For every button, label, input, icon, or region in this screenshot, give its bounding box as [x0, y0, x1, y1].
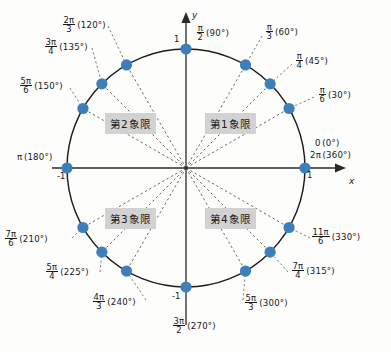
fraction-3pi-over-2: 3π 2	[172, 317, 186, 335]
label-angle-150: 5π 6 (150°)	[19, 77, 63, 95]
tick-right-1: 1	[307, 170, 312, 180]
fraction-pi-over-2: π 2	[196, 24, 205, 42]
quadrant-2-label: 第2象限	[105, 113, 156, 134]
fraction-5pi-over-3: 5π 3	[244, 294, 258, 312]
label-angle-135: 3π 4 (135°)	[44, 38, 88, 56]
fraction-7pi-over-6: 7π 6	[4, 230, 18, 248]
point-150deg[interactable]	[77, 103, 88, 114]
point-60deg[interactable]	[240, 59, 251, 70]
fraction-7pi-over-4: 7π 4	[291, 262, 305, 280]
tick-bottom-1: -1	[172, 291, 180, 301]
label-angle-90: π 2 (90°)	[196, 24, 229, 42]
quadrant-4-label: 第4象限	[205, 208, 256, 229]
angle-rays-group	[70, 26, 314, 300]
fraction-pi-over-4: π 4	[295, 52, 304, 70]
label-angle-315: 7π 4 (315°)	[291, 262, 335, 280]
tick-top-1: 1	[174, 34, 179, 44]
label-angle-120: 2π 3 (120°)	[62, 16, 106, 34]
point-45deg[interactable]	[265, 78, 276, 89]
label-angle-30: π 6 (30°)	[318, 86, 351, 104]
fraction-2pi-over-3: 2π 3	[62, 16, 76, 34]
x-axis-arrow	[335, 164, 346, 173]
point-315deg[interactable]	[265, 247, 276, 258]
tick-left-1: -1	[57, 171, 65, 181]
point-225deg[interactable]	[96, 247, 107, 258]
fraction-pi-over-6: π 6	[318, 86, 327, 104]
fraction-5pi-over-6: 5π 6	[19, 77, 33, 95]
unit-circle-figure: 第1象限 第2象限 第3象限 第4象限 x y 1 -1 -1 1 2π 3 (…	[0, 0, 391, 352]
label-angle-270: 3π 2 (270°)	[172, 317, 216, 335]
label-angle-60: π 3 (60°)	[265, 23, 298, 41]
label-angle-45: π 4 (45°)	[295, 52, 328, 70]
quadrant-1-label: 第1象限	[205, 113, 256, 134]
point-330deg[interactable]	[283, 222, 294, 233]
label-angle-360: 2π(360°)	[310, 151, 351, 160]
point-135deg[interactable]	[96, 78, 107, 89]
point-120deg[interactable]	[121, 59, 132, 70]
fraction-pi-over-3: π 3	[265, 23, 274, 41]
label-angle-180: π(180°)	[17, 153, 52, 162]
y-axis-arrow	[181, 12, 190, 23]
fraction-5pi-over-4: 5π 4	[45, 263, 59, 281]
label-angle-300: 5π 3 (300°)	[244, 294, 288, 312]
y-axis-label: y	[192, 10, 197, 20]
label-angle-330: 11π 6 (330°)	[311, 228, 360, 246]
label-angle-240: 4π 3 (240°)	[92, 293, 136, 311]
point-270deg[interactable]	[180, 281, 191, 292]
leader-120	[108, 26, 127, 65]
label-angle-210: 7π 6 (210°)	[4, 230, 48, 248]
label-angle-225: 5π 4 (225°)	[45, 263, 89, 281]
quadrant-3-label: 第3象限	[105, 208, 156, 229]
point-30deg[interactable]	[283, 103, 294, 114]
point-300deg[interactable]	[240, 265, 251, 276]
point-90deg[interactable]	[180, 43, 191, 54]
fraction-3pi-over-4: 3π 4	[44, 38, 58, 56]
fraction-11pi-over-6: 11π 6	[311, 228, 330, 246]
label-angle-0: 0(0°)	[315, 139, 339, 148]
fraction-4pi-over-3: 4π 3	[92, 293, 106, 311]
x-axis-label: x	[349, 176, 354, 186]
point-240deg[interactable]	[121, 265, 132, 276]
point-210deg[interactable]	[77, 222, 88, 233]
